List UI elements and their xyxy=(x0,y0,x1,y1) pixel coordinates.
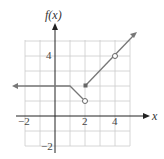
right-arrow-icon xyxy=(130,32,137,38)
y-tick-4: 4 xyxy=(46,49,52,61)
y-axis-arrow-icon xyxy=(52,23,58,30)
x-axis-arrow-icon xyxy=(143,113,150,119)
left-arrow-icon xyxy=(12,83,18,89)
closed-point xyxy=(84,84,88,88)
x-tick-2: 2 xyxy=(82,115,88,127)
x-tick-4: 4 xyxy=(112,115,118,127)
open-point xyxy=(83,99,88,104)
function-curve xyxy=(16,35,134,99)
open-point xyxy=(113,54,118,59)
y-axis-label: f(x) xyxy=(45,8,62,22)
x-tick-neg2: −2 xyxy=(18,115,30,127)
y-tick-neg2: −2 xyxy=(41,140,53,152)
axes xyxy=(16,28,146,153)
x-axis-label: x xyxy=(151,109,158,123)
function-graph: f(x) x −2 2 4 4 −2 xyxy=(0,0,164,159)
